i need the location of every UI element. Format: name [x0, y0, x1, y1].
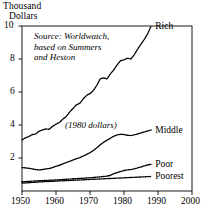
series-label-poor: Poor	[155, 159, 173, 169]
y-tick-label: 2	[10, 152, 15, 162]
series-line-middle	[22, 130, 151, 170]
x-tick-label: 1950	[11, 196, 30, 206]
source-annotation: Source: Worldwatch, based on Summers and…	[34, 31, 109, 63]
series-label-middle: Middle	[155, 125, 182, 135]
units-annotation: (1980 dollars)	[65, 120, 117, 131]
x-tick-label: 1990	[147, 196, 166, 206]
x-tick-label: 1960	[45, 196, 64, 206]
x-tick-label: 1980	[113, 196, 132, 206]
series-label-poorest: Poorest	[155, 171, 184, 181]
series-label-rich: Rich	[155, 21, 173, 31]
y-tick-label: 6	[10, 86, 15, 96]
y-tick-label: 8	[10, 53, 15, 63]
chart-figure: Thousand Dollars Source: Worldwatch, bas…	[0, 0, 210, 218]
y-tick-label: 4	[10, 119, 15, 129]
x-tick-label: 1970	[79, 196, 98, 206]
x-tick-label: 2000	[181, 196, 200, 206]
y-tick-label: 10	[4, 20, 14, 30]
